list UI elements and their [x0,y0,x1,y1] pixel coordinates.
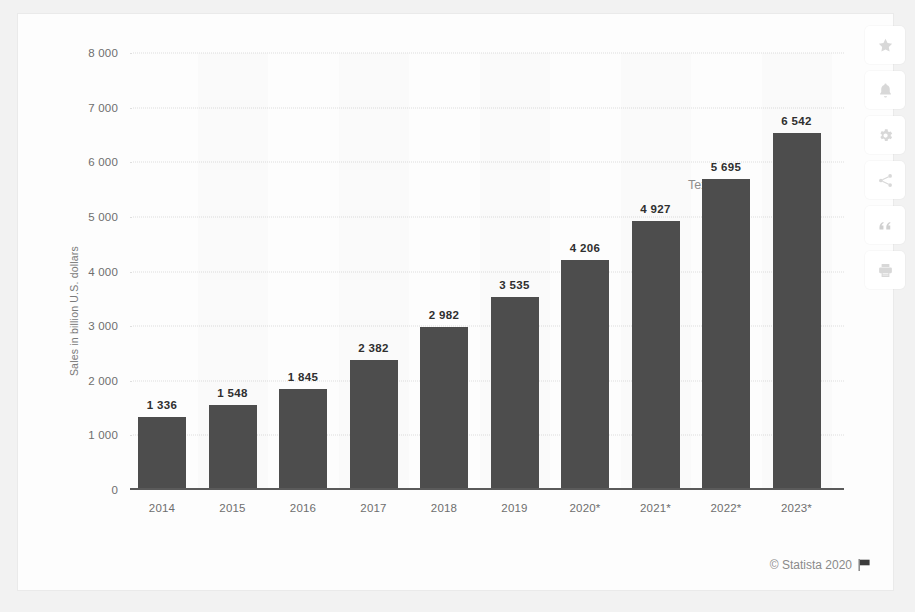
bar[interactable] [209,405,257,490]
bar-group[interactable]: 1 8452016 [279,53,327,490]
notification-bell-icon[interactable] [865,71,905,109]
bar[interactable] [350,360,398,490]
share-icon[interactable] [865,161,905,199]
bar[interactable] [279,389,327,490]
bar-group[interactable]: 5 6952022* [702,53,750,490]
chart-card: Sales in billion U.S. dollars 8 0007 000… [18,14,893,590]
settings-gear-icon[interactable] [865,116,905,154]
x-axis-tick-label: 2020* [569,502,600,514]
x-axis-tick-label: 2021* [640,502,671,514]
x-axis-line [130,488,844,490]
bar[interactable] [702,179,750,490]
bar-value-label: 2 982 [429,309,459,321]
bar-value-label: 4 206 [570,242,600,254]
y-axis-tick-label: 3 000 [88,320,118,332]
bar-value-label: 3 535 [499,279,529,291]
x-axis-tick-label: 2023* [781,502,812,514]
y-axis-tick-label: 0 [111,484,118,496]
y-axis-title: Sales in billion U.S. dollars [68,246,80,376]
flag-icon [858,559,871,571]
bar-series: 1 33620141 54820151 84520162 38220172 98… [130,53,844,490]
copyright-text: © Statista 2020 [770,558,852,572]
bar-group[interactable]: 1 3362014 [138,53,186,490]
bar[interactable] [138,417,186,490]
bar-value-label: 2 382 [358,342,388,354]
bar-group[interactable]: 4 2062020* [561,53,609,490]
y-axis-tick-label: 1 000 [88,429,118,441]
bar-group[interactable]: 3 5352019 [491,53,539,490]
bar-value-label: 6 542 [781,115,811,127]
y-axis-tick-label: 6 000 [88,156,118,168]
y-axis-tick-label: 2 000 [88,375,118,387]
bar[interactable] [561,260,609,490]
bar-group[interactable]: 2 3822017 [350,53,398,490]
x-axis-tick-label: 2017 [360,502,386,514]
citation-quote-icon[interactable] [865,206,905,244]
y-axis-tick-label: 7 000 [88,102,118,114]
y-axis-tick-label: 4 000 [88,266,118,278]
x-axis-tick-label: 2016 [290,502,316,514]
y-axis-tick-label: 8 000 [88,47,118,59]
bar-group[interactable]: 4 9272021* [632,53,680,490]
bar-value-label: 1 548 [217,387,247,399]
bar-value-label: 1 336 [147,399,177,411]
bar-group[interactable]: 1 5482015 [209,53,257,490]
icon-rail[interactable] [865,26,907,289]
print-icon[interactable] [865,251,905,289]
x-axis-tick-label: 2022* [710,502,741,514]
bar-group[interactable]: 6 5422023* [773,53,821,490]
x-axis-tick-label: 2014 [149,502,175,514]
bar-value-label: 1 845 [288,371,318,383]
bar[interactable] [773,133,821,490]
bar[interactable] [632,221,680,490]
footer: © Statista 2020 [770,558,871,572]
x-axis-tick-label: 2015 [219,502,245,514]
bar-group[interactable]: 2 9822018 [420,53,468,490]
bar[interactable] [491,297,539,490]
x-axis-tick-label: 2019 [501,502,527,514]
bar-value-label: 4 927 [640,203,670,215]
plot-area: 8 0007 0006 0005 0004 0003 0002 0001 000… [130,53,844,490]
y-axis-tick-label: 5 000 [88,211,118,223]
x-axis-tick-label: 2018 [431,502,457,514]
bar[interactable] [420,327,468,490]
favorite-star-icon[interactable] [865,26,905,64]
bar-value-label: 5 695 [711,161,741,173]
